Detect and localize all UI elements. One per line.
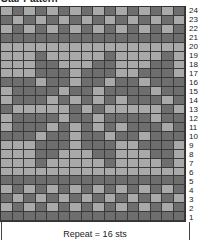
chart-cell (59, 185, 71, 194)
chart-cell (128, 150, 140, 159)
chart-cell (174, 61, 186, 70)
chart-cell (1, 123, 13, 132)
chart-cell (174, 105, 186, 114)
chart-cell (59, 114, 71, 123)
chart-cell (116, 212, 128, 221)
chart-title: Star Pattern (1, 0, 58, 4)
chart-cell (93, 168, 105, 177)
chart-cell (139, 194, 151, 203)
chart-cell (82, 123, 94, 132)
chart-cell (116, 185, 128, 194)
chart-cell (47, 150, 59, 159)
chart-cell (151, 159, 163, 168)
chart-cell (162, 16, 174, 25)
chart-cell (151, 16, 163, 25)
chart-cell (36, 212, 48, 221)
chart-cell (151, 87, 163, 96)
chart-cell (13, 69, 25, 78)
chart-cell (139, 52, 151, 61)
chart-cell (162, 123, 174, 132)
chart-cell (13, 105, 25, 114)
chart-cell (70, 7, 82, 16)
chart-cell (174, 7, 186, 16)
chart-cell (36, 69, 48, 78)
chart-cell (93, 16, 105, 25)
chart-cell (116, 69, 128, 78)
chart-cell (151, 43, 163, 52)
chart-cell (24, 25, 36, 34)
chart-cell (1, 61, 13, 70)
chart-cell (82, 87, 94, 96)
chart-cell (128, 114, 140, 123)
chart-cell (13, 78, 25, 87)
row-label: 22 (189, 24, 204, 33)
chart-cell (174, 212, 186, 221)
chart-cell (93, 34, 105, 43)
chart-cell (162, 34, 174, 43)
chart-cell (24, 105, 36, 114)
chart-cell (59, 7, 71, 16)
chart-cell (82, 176, 94, 185)
row-label: 10 (189, 132, 204, 141)
chart-cell (47, 61, 59, 70)
chart-cell (151, 176, 163, 185)
row-label: 18 (189, 60, 204, 69)
row-label: 19 (189, 51, 204, 60)
chart-cell (59, 203, 71, 212)
chart-cell (105, 141, 117, 150)
chart-cell (162, 132, 174, 141)
chart-cell (162, 43, 174, 52)
chart-cell (116, 141, 128, 150)
chart-cell (24, 34, 36, 43)
repeat-label: Repeat = 16 sts (0, 229, 190, 239)
chart-cell (82, 212, 94, 221)
chart-cell (82, 203, 94, 212)
chart-cell (139, 123, 151, 132)
row-label: 15 (189, 87, 204, 96)
chart-cell (128, 43, 140, 52)
chart-cell (139, 96, 151, 105)
chart-cell (47, 52, 59, 61)
chart-cell (116, 7, 128, 16)
chart-cell (13, 34, 25, 43)
chart-cell (59, 69, 71, 78)
chart-cell (93, 87, 105, 96)
chart-cell (59, 150, 71, 159)
chart-cell (36, 176, 48, 185)
row-label: 3 (189, 195, 204, 204)
chart-cell (128, 176, 140, 185)
chart-cell (174, 52, 186, 61)
chart-cell (59, 176, 71, 185)
chart-cell (162, 61, 174, 70)
chart-cell (116, 123, 128, 132)
chart-cell (13, 123, 25, 132)
chart-cell (128, 69, 140, 78)
chart-cell (151, 69, 163, 78)
chart-cell (47, 203, 59, 212)
row-label: 6 (189, 168, 204, 177)
chart-cell (1, 25, 13, 34)
chart-cell (59, 96, 71, 105)
chart-cell (174, 203, 186, 212)
chart-cell (82, 78, 94, 87)
chart-cell (105, 150, 117, 159)
chart-cell (151, 7, 163, 16)
chart-cell (151, 34, 163, 43)
chart-cell (105, 132, 117, 141)
chart-cell (105, 159, 117, 168)
chart-cell (36, 150, 48, 159)
chart-cell (24, 114, 36, 123)
chart-cell (70, 185, 82, 194)
chart-cell (24, 176, 36, 185)
chart-cell (93, 105, 105, 114)
chart-cell (105, 69, 117, 78)
chart-cell (151, 203, 163, 212)
chart-cell (128, 87, 140, 96)
chart-cell (93, 176, 105, 185)
chart-cell (116, 43, 128, 52)
chart-cell (47, 16, 59, 25)
chart-cell (1, 78, 13, 87)
chart-cell (139, 141, 151, 150)
chart-cell (13, 141, 25, 150)
chart-cell (105, 7, 117, 16)
